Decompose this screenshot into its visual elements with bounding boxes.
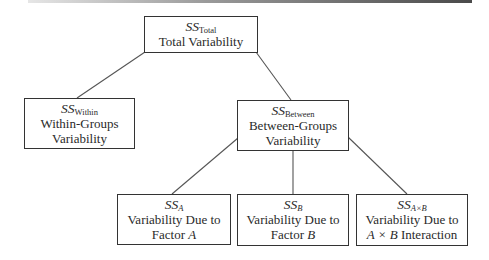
ss-within-label: SSWithin: [61, 102, 98, 116]
edge-between-factor-a: [172, 138, 238, 194]
node-factor-b: SSB Variability Due to Factor B: [237, 194, 349, 246]
node-interaction: SSA×B Variability Due to A × B Interacti…: [356, 194, 468, 246]
factor-b-description-1: Variability Due to: [246, 212, 339, 227]
node-factor-a: SSA Variability Due to Factor A: [117, 194, 231, 245]
edge-total-within: [77, 52, 145, 98]
factor-a-description-1: Variability Due to: [127, 212, 220, 227]
edge-between-interaction: [348, 137, 407, 194]
between-description-2: Variability: [266, 133, 321, 148]
ss-b-label: SSB: [284, 198, 303, 212]
ss-a-label: SSA: [165, 198, 184, 212]
within-description-1: Within-Groups: [40, 116, 118, 131]
ss-total-label: SSTotal: [186, 20, 217, 34]
node-within: SSWithin Within-Groups Variability: [24, 98, 135, 149]
interaction-description-2: A × B Interaction: [367, 227, 457, 242]
node-between: SSBetween Between-Groups Variability: [237, 100, 349, 151]
between-description-1: Between-Groups: [249, 118, 337, 133]
factor-a-description-2: Factor A: [152, 227, 196, 242]
edge-total-between: [256, 52, 291, 100]
total-description: Total Variability: [159, 34, 243, 49]
node-total: SSTotal Total Variability: [144, 16, 258, 53]
factor-b-description-2: Factor B: [271, 227, 315, 242]
ss-axb-label: SSA×B: [397, 198, 427, 212]
within-description-2: Variability: [52, 131, 107, 146]
interaction-description-1: Variability Due to: [365, 212, 458, 227]
ss-between-label: SSBetween: [271, 104, 314, 118]
